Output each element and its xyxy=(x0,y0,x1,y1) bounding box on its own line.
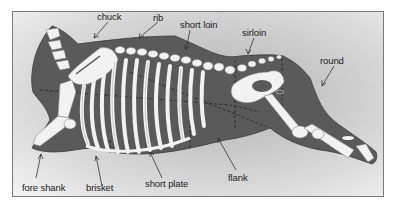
hock-bone xyxy=(342,136,354,140)
label-short-plate: short plate xyxy=(145,178,188,189)
label-fore-shank: fore shank xyxy=(22,182,65,193)
pelvis-hole xyxy=(252,80,272,92)
label-round: round xyxy=(320,55,344,66)
label-short-loin: short loin xyxy=(180,19,218,30)
label-sirloin: sirloin xyxy=(242,27,266,38)
label-rib: rib xyxy=(153,12,163,23)
label-flank: flank xyxy=(228,172,248,183)
label-brisket: brisket xyxy=(86,182,113,193)
carcass-diagram xyxy=(0,0,398,212)
label-chuck: chuck xyxy=(97,11,121,22)
